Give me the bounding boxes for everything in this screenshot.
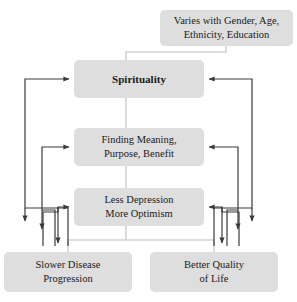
- arrow-slower-disease-to-depression: [43, 207, 69, 246]
- node-context: Varies with Gender, Age, Ethnicity, Educ…: [160, 10, 293, 46]
- node-less-depression-label: Less Depression More Optimism: [104, 193, 173, 221]
- node-spirituality: Spirituality: [74, 60, 204, 98]
- arrow-slower-disease-to-meaning: [42, 147, 69, 246]
- node-less-depression: Less Depression More Optimism: [74, 188, 204, 226]
- left-feedback-arrows: [25, 79, 69, 246]
- node-context-label: Varies with Gender, Age, Ethnicity, Educ…: [174, 14, 279, 42]
- node-finding-meaning: Finding Meaning, Purpose, Benefit: [74, 128, 204, 166]
- node-spirituality-label: Spirituality: [112, 72, 166, 87]
- arrow-slower-disease-to-spirituality: [25, 79, 69, 246]
- arrow-better-quality-to-meaning: [209, 147, 238, 246]
- node-better-quality-of-life: Better Quality of Life: [150, 252, 278, 292]
- node-slower-disease-progression-label: Slower Disease Progression: [35, 258, 100, 286]
- right-feedback-arrows: [209, 79, 252, 246]
- node-better-quality-of-life-label: Better Quality of Life: [184, 258, 244, 286]
- flowchart-diagram: Varies with Gender, Age, Ethnicity, Educ…: [0, 0, 297, 302]
- connector-context-to-spirituality: [126, 46, 226, 60]
- arrow-better-quality-to-spirituality: [209, 79, 252, 246]
- node-slower-disease-progression: Slower Disease Progression: [4, 252, 132, 292]
- node-finding-meaning-label: Finding Meaning, Purpose, Benefit: [101, 133, 176, 161]
